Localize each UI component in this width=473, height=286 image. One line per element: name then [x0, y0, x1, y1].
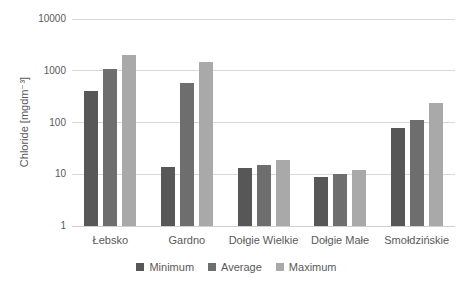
bar-minimum-1 [84, 91, 98, 226]
bar-minimum-3 [238, 168, 252, 226]
legend-swatch-maximum [276, 263, 284, 271]
legend-item-maximum: Maximum [276, 261, 337, 273]
chart-container: Chloride [mgdm⁻³] MinimumAverageMaximum … [0, 0, 473, 286]
category-label: Dołgie Wielkie [225, 234, 302, 247]
bar-minimum-5 [391, 128, 405, 226]
y-tick-label: 1000 [0, 65, 66, 77]
bar-maximum-3 [276, 160, 290, 226]
legend-item-minimum: Minimum [136, 261, 194, 273]
bar-maximum-5 [429, 103, 443, 226]
category-label: Gardno [149, 234, 226, 247]
y-tick-label: 10 [0, 168, 66, 180]
legend-label-minimum: Minimum [149, 261, 194, 273]
bar-average-2 [180, 83, 194, 226]
category-label: Łebsko [72, 234, 149, 247]
bar-average-3 [257, 165, 271, 226]
bar-average-1 [103, 69, 117, 226]
legend-item-average: Average [208, 261, 262, 273]
bar-maximum-4 [352, 170, 366, 226]
legend-label-maximum: Maximum [289, 261, 337, 273]
category-label: Dołgie Małe [302, 234, 379, 247]
bar-maximum-1 [122, 55, 136, 226]
legend-swatch-minimum [136, 263, 144, 271]
bar-maximum-2 [199, 62, 213, 226]
y-tick-label: 10000 [0, 13, 66, 25]
bar-average-5 [410, 120, 424, 226]
bar-average-4 [333, 174, 347, 226]
y-tick-label: 1 [0, 220, 66, 232]
gridline-10000 [72, 19, 455, 20]
legend-swatch-average [208, 263, 216, 271]
y-tick-label: 100 [0, 117, 66, 129]
bar-minimum-2 [161, 167, 175, 226]
x-axis-line [72, 226, 455, 227]
legend: MinimumAverageMaximum [0, 261, 473, 273]
legend-label-average: Average [221, 261, 262, 273]
bar-minimum-4 [314, 177, 328, 226]
category-label: Smołdzińskie [378, 234, 455, 247]
